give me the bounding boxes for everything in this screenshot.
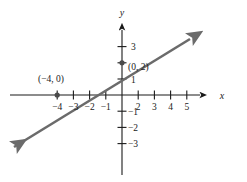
x-tick-label-neg3: −3 bbox=[68, 102, 78, 112]
y-intercept-label: (0, 2) bbox=[128, 62, 149, 73]
x-tick-label-4: 4 bbox=[168, 102, 173, 112]
x-tick-label-neg4: −4 bbox=[52, 102, 62, 112]
graph-figure: x y −4 −3 −2 −1 2 3 4 5 3 1 −1 −2 −3 (−4… bbox=[0, 0, 247, 182]
y-tick-label-3: 3 bbox=[131, 42, 136, 52]
x-intercept-label: (−4, 0) bbox=[38, 74, 64, 85]
x-tick-label-3: 3 bbox=[152, 102, 157, 112]
y-axis-label: y bbox=[119, 7, 125, 18]
y-tick-label-neg1: −1 bbox=[128, 107, 138, 117]
x-tick-label-5: 5 bbox=[184, 102, 189, 112]
x-tick-label-neg1: −1 bbox=[101, 102, 111, 112]
x-axis-label: x bbox=[219, 90, 225, 101]
coordinate-plane: x y −4 −3 −2 −1 2 3 4 5 3 1 −1 −2 −3 (−4… bbox=[0, 0, 247, 182]
plot-background bbox=[0, 0, 247, 182]
y-tick-label-1: 1 bbox=[131, 75, 136, 85]
x-tick-label-neg2: −2 bbox=[85, 102, 95, 112]
y-tick-label-neg3: −3 bbox=[128, 139, 138, 149]
y-intercept-marker bbox=[119, 60, 124, 65]
y-tick-label-neg2: −2 bbox=[128, 123, 138, 133]
x-intercept-marker bbox=[55, 92, 60, 97]
